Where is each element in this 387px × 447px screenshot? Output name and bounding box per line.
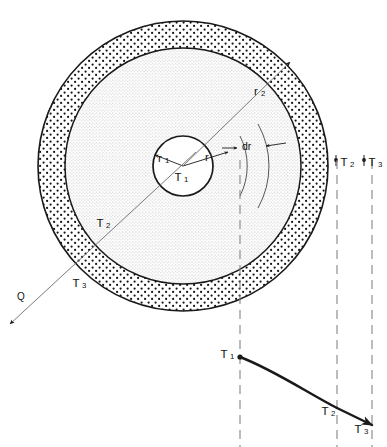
profile-segment-inner-layer (240, 357, 337, 408)
label-T2-right: T 2 (340, 156, 354, 169)
label-T3-right: T 3 (368, 156, 382, 169)
label-T2-graph-sub: 2 (331, 409, 335, 418)
label-T2-left-base: T (96, 217, 103, 229)
label-r: r (205, 151, 209, 163)
label-r2-sub: 2 (261, 89, 265, 98)
label-T3-left-base: T (72, 277, 79, 289)
label-T3-graph-base: T (354, 423, 361, 435)
label-T1-graph-base: T (220, 348, 227, 360)
label-T3-right-sub: 3 (378, 160, 382, 169)
radial-conduction-diagram: r 1 r dr r 2 T 1 T 2 T 3 (0, 0, 387, 447)
label-T1-graph: T 1 (220, 348, 234, 361)
label-r-base: r (205, 151, 209, 163)
profile-point-T1 (237, 354, 242, 359)
label-T2-left-sub: 2 (106, 221, 110, 230)
label-T3-left-sub: 3 (82, 281, 86, 290)
label-T1-graph-sub: 1 (230, 352, 234, 361)
label-dr: dr (242, 140, 252, 152)
label-Q: Q (17, 291, 25, 302)
figure-root: r 1 r dr r 2 T 1 T 2 T 3 (0, 0, 387, 447)
label-r1-base: r (158, 152, 162, 164)
label-T1-center-sub: 1 (184, 175, 188, 184)
label-T2-right-sub: 2 (350, 160, 354, 169)
label-Q-base: Q (17, 291, 25, 302)
label-T1-center-base: T (174, 171, 181, 183)
label-r2-base: r (254, 85, 258, 97)
label-r1-sub: 1 (165, 156, 169, 165)
temperature-profile-curve (237, 354, 372, 425)
label-T3-graph-sub: 3 (364, 427, 368, 436)
label-T3-left: T 3 (72, 277, 86, 290)
label-T3-right-base: T (368, 156, 375, 168)
label-T3-graph: T 3 (354, 423, 368, 436)
label-T2-graph-base: T (321, 405, 328, 417)
label-dr-base: dr (242, 140, 252, 152)
label-T2-right-base: T (340, 156, 347, 168)
